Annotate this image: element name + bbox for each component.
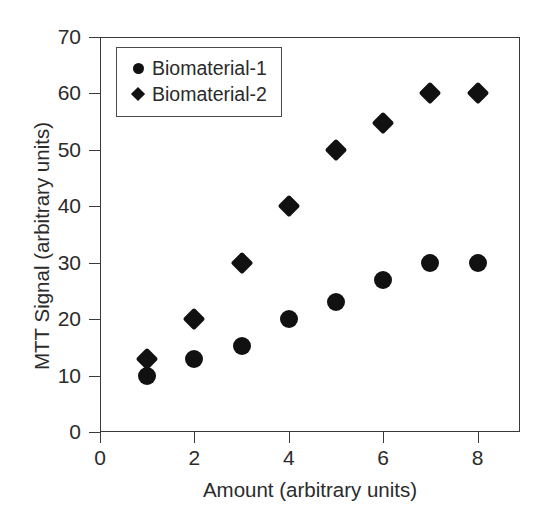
data-point: [469, 254, 487, 272]
x-axis-tick-label: 6: [358, 446, 408, 470]
y-axis-tick: [89, 150, 100, 151]
mtt-signal-scatter-chart: 010203040506070 02468 MTT Signal (arbitr…: [0, 0, 555, 527]
y-axis-tick: [89, 263, 100, 264]
data-point: [233, 337, 251, 355]
data-point: [374, 271, 392, 289]
circle-marker-icon: [127, 63, 149, 74]
y-axis-title: MTT Signal (arbitrary units): [30, 46, 54, 446]
x-axis-tick: [100, 432, 101, 443]
chart-legend: Biomaterial-1 Biomaterial-2: [116, 47, 282, 117]
legend-item-label: Biomaterial-1: [149, 57, 267, 80]
y-axis-tick: [89, 206, 100, 207]
diamond-marker-icon: [127, 89, 149, 99]
data-point: [280, 310, 298, 328]
y-axis-tick: [89, 93, 100, 94]
x-axis-tick-label: 8: [453, 446, 503, 470]
data-point: [327, 293, 345, 311]
x-axis-tick-label: 0: [75, 446, 125, 470]
legend-item: Biomaterial-2: [127, 81, 267, 107]
legend-item: Biomaterial-1: [127, 55, 267, 81]
data-point: [421, 254, 439, 272]
x-axis-tick: [478, 432, 479, 443]
y-axis-tick: [89, 432, 100, 433]
x-axis-tick: [194, 432, 195, 443]
x-axis-tick-label: 2: [169, 446, 219, 470]
x-axis-tick-label: 4: [264, 446, 314, 470]
data-point: [185, 350, 203, 368]
y-axis-tick: [89, 37, 100, 38]
legend-item-label: Biomaterial-2: [149, 83, 267, 106]
y-axis-tick: [89, 376, 100, 377]
x-axis-tick: [289, 432, 290, 443]
x-axis-title: Amount (arbitrary units): [100, 478, 520, 502]
y-axis-tick: [89, 319, 100, 320]
x-axis-tick: [383, 432, 384, 443]
